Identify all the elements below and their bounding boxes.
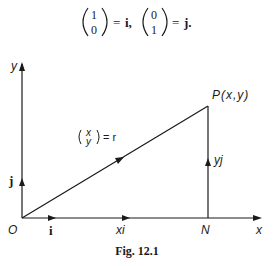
point-P-label: P(x,y) [212, 89, 249, 101]
xi-label: xi [116, 224, 125, 236]
i-arrow-icon [48, 215, 56, 221]
figure-caption: Fig. 12.1 [0, 244, 274, 259]
unit-i-label: i [49, 224, 53, 237]
y-axis-label: y [11, 60, 17, 72]
yj-arrow-icon [205, 158, 211, 166]
origin-label: O [8, 224, 17, 236]
x-axis-label: x [256, 224, 262, 236]
r-arrow-icon [115, 157, 124, 164]
j-arrow-icon [19, 178, 25, 186]
xi-arrow-icon [122, 215, 130, 221]
y-axis-arrow-icon [19, 62, 25, 71]
position-vector-r [22, 106, 208, 218]
point-N-label: N [201, 224, 210, 236]
unit-j-label: j [9, 174, 13, 187]
yj-label: yj [214, 154, 223, 166]
r-rhs: = r [103, 132, 116, 143]
r-vec-bottom: y [86, 137, 91, 147]
vector-diagram [0, 0, 274, 266]
x-axis-arrow-icon [253, 215, 262, 221]
